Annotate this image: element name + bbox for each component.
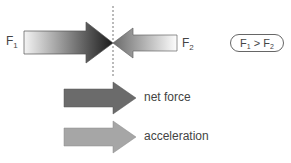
relation-badge: F1 > F2 xyxy=(230,34,284,52)
f2-arrow xyxy=(113,28,177,58)
f2-label: F2 xyxy=(182,36,194,52)
acceleration-label: acceleration xyxy=(144,129,209,143)
acceleration-arrow xyxy=(64,121,136,153)
f1-arrow xyxy=(24,22,113,63)
net-force-arrow xyxy=(64,82,136,114)
net-force-label: net force xyxy=(144,90,191,104)
f1-label: F1 xyxy=(6,34,18,50)
